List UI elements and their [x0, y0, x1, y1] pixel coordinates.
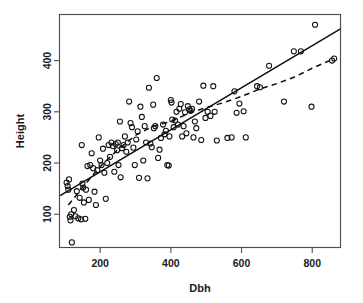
y-axis-title: Height [14, 114, 26, 149]
y-tick-label: 300 [41, 103, 53, 121]
x-axis-title: Dbh [189, 282, 211, 294]
y-tick-label: 400 [41, 52, 53, 70]
x-tick-label: 800 [303, 257, 321, 269]
plot-canvas: 200400600800 100200300400 Dbh Height [0, 0, 363, 303]
y-tick-label: 100 [41, 205, 53, 223]
x-tick-label: 200 [91, 257, 109, 269]
x-tick-label: 600 [233, 257, 251, 269]
x-tick-label: 400 [162, 257, 180, 269]
scatter-plot-figure: 200400600800 100200300400 Dbh Height [0, 0, 363, 303]
y-tick-label: 200 [41, 154, 53, 172]
